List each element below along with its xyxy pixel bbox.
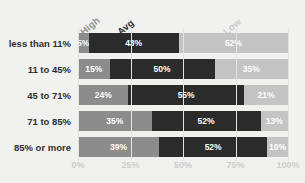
category-label: less than 11%: [0, 33, 74, 53]
value-axis-tick: 100%: [276, 160, 299, 170]
bar-row: 5%43%52%: [78, 33, 288, 53]
category-label: 45 to 71%: [0, 85, 74, 105]
bar-value-label: 13%: [266, 116, 283, 126]
bar-rows: 5%43%52%15%50%35%24%55%21%35%52%13%39%52…: [78, 33, 288, 157]
gridline: [288, 29, 289, 161]
bar-value-label: 5%: [78, 38, 89, 48]
bar-value-label: 24%: [95, 90, 112, 100]
bar-value-label: 15%: [85, 64, 102, 74]
value-axis-tick: 50%: [174, 160, 192, 170]
bar-value-label: 10%: [269, 142, 286, 152]
category-label: 85% or more: [0, 137, 74, 157]
value-axis-tick: 25%: [121, 160, 139, 170]
bar-value-label: 50%: [153, 64, 170, 74]
bar-row: 15%50%35%: [78, 59, 288, 79]
bar-segment-avg: 50%: [110, 59, 215, 79]
bar-segment-low: 13%: [261, 111, 288, 131]
bar-segment-low: 35%: [215, 59, 289, 79]
bar-value-label: 52%: [225, 38, 242, 48]
bar-value-label: 43%: [125, 38, 142, 48]
bar-segment-high: 5%: [78, 33, 89, 53]
bar-row: 39%52%10%: [78, 137, 288, 157]
bar-segment-high: 15%: [78, 59, 110, 79]
bar-value-label: 35%: [243, 64, 260, 74]
category-axis: less than 11% 11 to 45% 45 to 71% 71 to …: [0, 33, 74, 157]
plot-area: 5%43%52%15%50%35%24%55%21%35%52%13%39%52…: [78, 33, 288, 157]
bar-segment-avg: 55%: [128, 85, 244, 105]
bar-row: 24%55%21%: [78, 85, 288, 105]
category-label: 11 to 45%: [0, 59, 74, 79]
value-axis: 0%25%50%75%100%: [78, 160, 288, 174]
bar-segment-high: 39%: [78, 137, 159, 157]
bar-segment-low: 10%: [267, 137, 288, 157]
bar-segment-high: 35%: [78, 111, 152, 131]
category-label: 71 to 85%: [0, 111, 74, 131]
bar-segment-avg: 52%: [152, 111, 261, 131]
bar-row: 35%52%13%: [78, 111, 288, 131]
bar-value-label: 52%: [198, 116, 215, 126]
bar-segment-high: 24%: [78, 85, 128, 105]
bar-segment-low: 52%: [179, 33, 288, 53]
value-axis-tick: 0%: [71, 160, 84, 170]
bar-value-label: 52%: [205, 142, 222, 152]
stacked-bar-chart: High Avg Low less than 11% 11 to 45% 45 …: [0, 0, 305, 183]
bar-value-label: 39%: [110, 142, 127, 152]
bar-segment-avg: 43%: [89, 33, 179, 53]
value-axis-tick: 75%: [226, 160, 244, 170]
series-header-row: High Avg Low: [0, 0, 305, 32]
bar-value-label: 55%: [178, 90, 195, 100]
bar-value-label: 35%: [106, 116, 123, 126]
bar-segment-avg: 52%: [159, 137, 267, 157]
bar-value-label: 21%: [257, 90, 274, 100]
bar-segment-low: 21%: [244, 85, 288, 105]
